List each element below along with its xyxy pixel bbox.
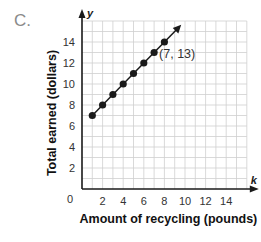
y-tick-label: 2 xyxy=(69,162,75,174)
data-point xyxy=(109,91,116,98)
y-tick-label: 8 xyxy=(69,99,75,111)
y-tick-label: 10 xyxy=(63,78,75,90)
y-axis-title: Total earned (dollars) xyxy=(45,50,59,176)
x-tick-label: 14 xyxy=(220,195,232,207)
x-tick-label: 2 xyxy=(100,195,106,207)
x-tick-label: 8 xyxy=(161,195,167,207)
chart: C. yk246810121424681012140Amount of recy… xyxy=(0,0,261,242)
x-tick-label: 4 xyxy=(120,195,126,207)
y-axis-variable: y xyxy=(86,7,94,19)
x-tick-label: 10 xyxy=(179,195,191,207)
data-point xyxy=(89,112,96,119)
point-annotation: (7, 13) xyxy=(159,47,195,61)
data-point xyxy=(130,70,137,77)
y-tick-label: 12 xyxy=(63,57,75,69)
y-axis-arrow-icon xyxy=(79,9,86,18)
x-tick-label: 6 xyxy=(141,195,147,207)
x-axis-variable: k xyxy=(251,174,258,186)
y-tick-label: 4 xyxy=(69,141,75,153)
y-tick-label: 6 xyxy=(69,120,75,132)
data-point xyxy=(140,59,147,66)
option-label: C. xyxy=(14,11,31,31)
data-point xyxy=(99,101,106,108)
data-point xyxy=(161,38,168,45)
y-tick-label: 14 xyxy=(63,36,75,48)
x-axis-arrow-icon xyxy=(250,186,259,193)
data-point xyxy=(120,80,127,87)
origin-label: 0 xyxy=(67,193,73,205)
x-tick-label: 12 xyxy=(199,195,211,207)
data-point xyxy=(151,49,158,56)
chart-plot: yk246810121424681012140Amount of recycli… xyxy=(0,0,261,242)
x-axis-title: Amount of recycling (pounds) xyxy=(80,212,258,226)
